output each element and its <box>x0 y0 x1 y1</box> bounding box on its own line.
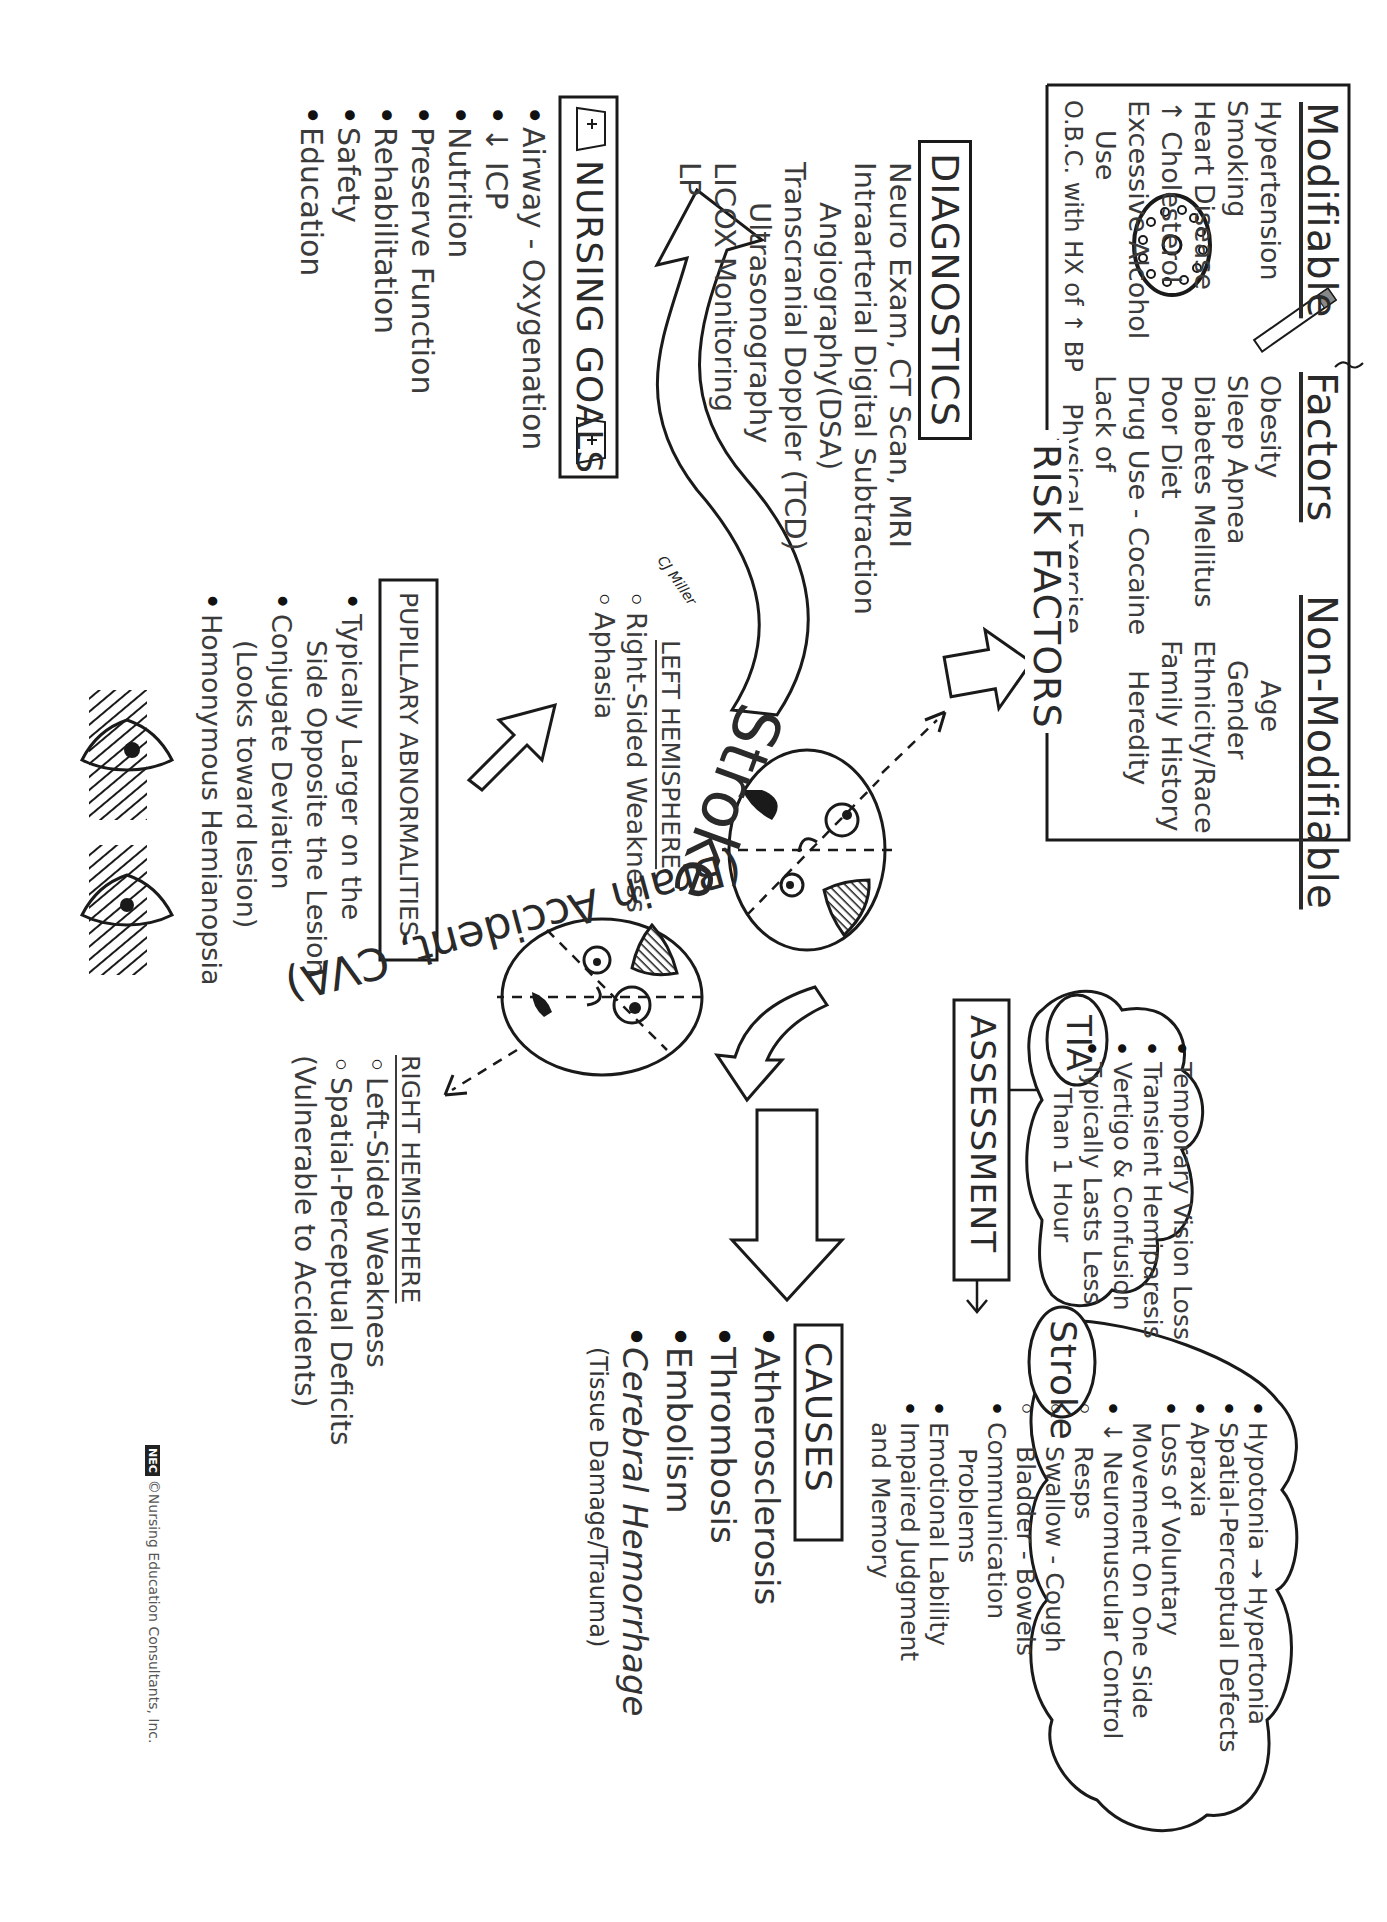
non-modifiable-list: Age Gender Ethnicity/Race Family History… <box>1122 640 1287 834</box>
tia-list: Temporary Vision Loss Transient Hemipare… <box>1047 1040 1197 1340</box>
left-hemisphere-item: Aphasia <box>588 590 620 913</box>
nursing-goal-item: ↓ ICP <box>478 105 515 450</box>
stroke-concept-map: CJ Miller <box>0 0 1387 1922</box>
pupillary-list: Typically Larger on the Side Opposite th… <box>194 592 369 985</box>
eye-hemianopsia-icon <box>82 690 172 820</box>
risk-item: Poor Diet <box>1155 375 1188 635</box>
risk-item: ↑ Cholesterol <box>1155 100 1188 372</box>
assessment-heading: ASSESSMENT <box>963 1015 1003 1253</box>
nursing-goals-heading: NURSING GOALS <box>569 160 610 474</box>
stroke-signs-list: Hypotonia → Hypertonia Spatial-Perceptua… <box>866 1400 1272 1753</box>
risk-item: Gender <box>1221 640 1254 834</box>
pupillary-item: (Looks toward lesion) <box>229 592 264 985</box>
cause-item: Thrombosis <box>701 1325 745 1716</box>
stroke-sign-item: Swallow - Cough <box>1040 1400 1069 1753</box>
risk-item: Smoking <box>1221 100 1254 372</box>
stroke-sign-item: Spatial-Perceptual Defects <box>1214 1400 1243 1753</box>
nursing-goal-item: Nutrition <box>441 105 478 450</box>
risk-item: O.B.C. with HX of ↑ BP <box>1056 100 1089 372</box>
non-modifiable-heading: Non-Modifiable <box>1299 595 1345 910</box>
risk-factors-label: RISK FACTORS <box>1025 440 1069 733</box>
modifiable-col2: Obesity Sleep Apnea Diabetes Mellitus Po… <box>1056 375 1287 635</box>
risk-item: Age <box>1254 640 1287 834</box>
nursing-goals-list: Airway - Oxygenation ↓ ICP Nutrition Pre… <box>293 105 552 450</box>
right-hemisphere-list: Left-Sided Weakness Spatial-Perceptual D… <box>286 1055 394 1446</box>
nursing-goal-item: Airway - Oxygenation <box>515 105 552 450</box>
risk-item: Ethnicity/Race <box>1188 640 1221 834</box>
copyright-text: ©Nursing Education Consultants, Inc. <box>146 1480 162 1744</box>
diagnostic-item: LICOX Monitoring <box>707 162 742 615</box>
pupillary-item: Conjugate Deviation <box>264 592 299 985</box>
diagnostic-item: Neuro Exam, CT Scan, MRI <box>882 162 917 615</box>
copyright-footer: NEC©Nursing Education Consultants, Inc. <box>145 1445 162 1744</box>
nursing-goal-item: Rehabilitation <box>367 105 404 450</box>
risk-item: Lack of <box>1089 375 1122 635</box>
right-hemisphere-heading: RIGHT HEMISPHERE <box>394 1055 427 1303</box>
pupillary-heading: PUPILLARY ABNORMALITIES <box>392 592 425 937</box>
tia-item: Temporary Vision Loss <box>1167 1040 1197 1340</box>
right-hemisphere-item: Spatial-Perceptual Deficits <box>322 1055 358 1446</box>
stroke-sign-item: Communication <box>982 1400 1011 1753</box>
diagnostics-list: Neuro Exam, CT Scan, MRI Intraarterial D… <box>672 162 917 615</box>
modifiable-col1: Hypertension Smoking Heart Disease ↑ Cho… <box>1056 100 1287 372</box>
risk-item: Diabetes Mellitus <box>1188 375 1221 635</box>
pupillary-item: Typically Larger on the <box>334 592 369 985</box>
risk-item: Use <box>1089 100 1122 372</box>
nursing-goal-item: Safety <box>330 105 367 450</box>
stroke-sign-item: ↓ Neuromuscular Control <box>1098 1400 1127 1753</box>
diagnostic-item: Ultrasonography <box>742 162 777 615</box>
risk-item: Family History <box>1155 640 1188 834</box>
right-hemisphere-item: Left-Sided Weakness <box>358 1055 394 1446</box>
stroke-sign-item: Resps <box>1069 1400 1098 1753</box>
stroke-sign-item: Loss of Voluntary <box>1156 1400 1185 1753</box>
risk-item: Obesity <box>1254 375 1287 635</box>
diagnostic-item: Angiography(DSA) <box>812 162 847 615</box>
stroke-sign-item: Emotional Lability <box>924 1400 953 1753</box>
stroke-sign-item: Bladder - Bowels <box>1011 1400 1040 1753</box>
factors-heading: Factors <box>1299 372 1345 522</box>
nursing-goal-item: Education <box>293 105 330 450</box>
nursing-goal-item: Preserve Function <box>404 105 441 450</box>
causes-list: Atherosclerosis Thrombosis Embolism Cere… <box>583 1325 789 1716</box>
diagnostic-item: Transcranial Doppler (TCD) <box>777 162 812 615</box>
diagnostic-item: Intraarterial Digital Subtraction <box>847 162 882 615</box>
tia-item: Vertigo & Confusion <box>1107 1040 1137 1340</box>
right-hemisphere-item: (Vulnerable to Accidents) <box>286 1055 322 1446</box>
risk-item: Heart Disease <box>1188 100 1221 372</box>
diagnostic-item: LP <box>672 162 707 615</box>
cause-item: Embolism <box>657 1325 701 1716</box>
tia-item: Typically Lasts Less <box>1077 1040 1107 1340</box>
risk-item: Drug Use - Cocaine <box>1122 375 1155 635</box>
stroke-sign-item: Impaired Judgment <box>895 1400 924 1753</box>
modifiable-heading: Modifiable <box>1299 102 1345 318</box>
cause-item: Cerebral Hemorrhage <box>613 1325 657 1716</box>
stroke-sign-item: Hypotonia → Hypertonia <box>1243 1400 1272 1753</box>
tia-item: Transient Hemiparesis <box>1137 1040 1167 1340</box>
nurse-cap-icon <box>577 108 605 150</box>
diagnostics-heading: DIAGNOSTICS <box>923 153 967 427</box>
cause-item: (Tissue Damage/Trauma) <box>583 1325 613 1716</box>
pupillary-item: Side Opposite the Lesion <box>299 592 334 985</box>
causes-heading: CAUSES <box>798 1342 839 1493</box>
risk-item: Excessive Alcohol <box>1122 100 1155 372</box>
risk-item: Hypertension <box>1254 100 1287 372</box>
pupillary-item: Homonymous Hemianopsia <box>194 592 229 985</box>
tia-item: Than 1 Hour <box>1047 1040 1077 1340</box>
diagnostics-heading-box: DIAGNOSTICS <box>918 140 972 440</box>
stroke-sign-item: Apraxia <box>1185 1400 1214 1753</box>
eye-hemianopsia-icon <box>82 845 172 975</box>
stroke-sign-item: Movement On One Side <box>1127 1400 1156 1753</box>
risk-item: Sleep Apnea <box>1221 375 1254 635</box>
stroke-sign-item: and Memory <box>866 1400 895 1753</box>
nec-logo: NEC <box>145 1445 160 1476</box>
cause-item: Atherosclerosis <box>745 1325 789 1716</box>
risk-item: Heredity <box>1122 640 1155 834</box>
stroke-sign-item: Problems <box>953 1400 982 1753</box>
